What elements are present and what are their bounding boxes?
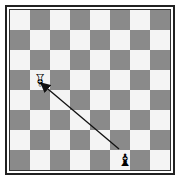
white-bishop-inverted-piece[interactable]: ♗ [30,70,50,90]
move-arrow [0,0,180,181]
black-bishop-piece[interactable]: ♝ [115,150,135,170]
